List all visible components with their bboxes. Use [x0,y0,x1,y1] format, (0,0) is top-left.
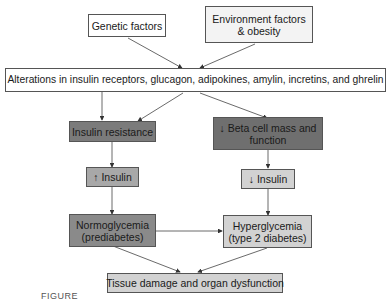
beta-cell-label-line1: ↓ Beta cell mass and [220,122,317,134]
insulin-decrease-label: ↓ Insulin [249,173,288,185]
hyperglycemia-label-line1: Hyperglycemia [233,220,302,232]
alterations-node: Alterations in insulin receptors, glucag… [5,68,386,92]
figure-caption: FIGURE [41,291,78,301]
normoglycemia-label-line2: (prediabetes) [82,231,144,243]
genetic-factors-label: Genetic factors [92,20,163,32]
insulin-resistance-label: Insulin resistance [72,126,153,138]
insulin-increase-node: ↑ Insulin [86,167,139,187]
insulin-decrease-node: ↓ Insulin [241,169,295,189]
hyperglycemia-label-line2: (type 2 diabetes) [228,232,306,244]
genetic-factors-node: Genetic factors [88,14,166,37]
normoglycemia-node: Normoglycemia (prediabetes) [69,214,156,247]
beta-cell-node: ↓ Beta cell mass and function [213,117,323,150]
environment-label-line1: Environment factors [212,13,305,25]
tissue-damage-label: Tissue damage and organ dysfunction [106,277,284,289]
insulin-resistance-node: Insulin resistance [69,121,156,142]
alterations-label: Alterations in insulin receptors, glucag… [7,74,383,86]
beta-cell-label-line2: function [250,134,287,146]
environment-label-line2: & obesity [237,25,280,37]
environment-factors-node: Environment factors & obesity [205,6,313,43]
normoglycemia-label-line1: Normoglycemia [76,219,149,231]
tissue-damage-node: Tissue damage and organ dysfunction [107,273,283,293]
insulin-increase-label: ↑ Insulin [93,171,132,183]
hyperglycemia-node: Hyperglycemia (type 2 diabetes) [223,215,312,248]
